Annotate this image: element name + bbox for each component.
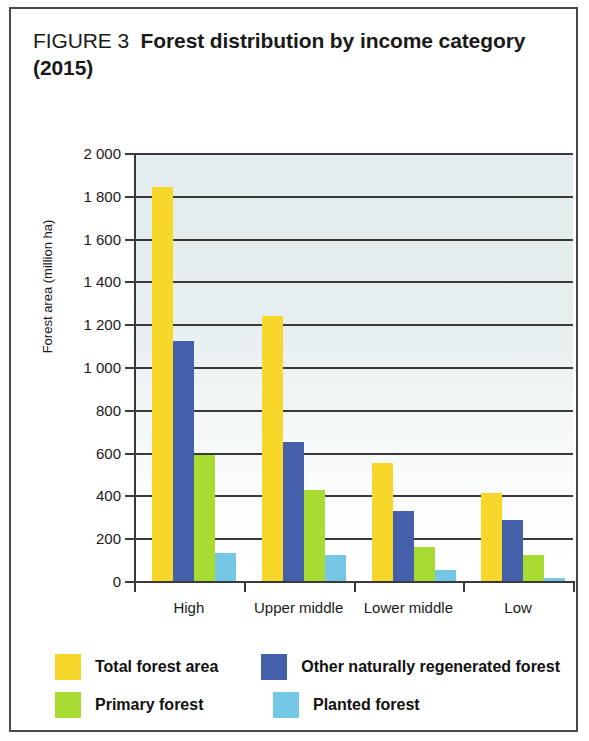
y-tick-mark: [125, 453, 134, 455]
x-category-label: Low: [504, 599, 532, 616]
y-tick-label: 2 000: [83, 145, 121, 162]
y-axis-line: [134, 153, 136, 583]
bar: [173, 341, 194, 581]
gridline: [134, 324, 573, 326]
y-axis-title: Forest area (million ha): [40, 187, 55, 387]
legend-label: Other naturally regenerated forest: [301, 658, 560, 676]
gridline: [134, 153, 573, 155]
y-tick-label: 1 600: [83, 230, 121, 247]
bar: [215, 553, 236, 581]
bar: [152, 187, 173, 581]
bar: [414, 547, 435, 581]
legend-label: Planted forest: [313, 696, 420, 714]
bar: [283, 442, 304, 581]
bar: [435, 570, 456, 581]
chart-legend: Total forest area Other naturally regene…: [55, 648, 560, 724]
gridline: [134, 239, 573, 241]
y-tick-label: 400: [96, 487, 121, 504]
bar: [262, 316, 283, 581]
y-tick-label: 200: [96, 530, 121, 547]
legend-row: Primary forest Planted forest: [55, 686, 560, 724]
bar: [393, 511, 414, 581]
x-axis-line: [134, 581, 575, 583]
y-tick-mark: [125, 538, 134, 540]
y-tick-mark: [125, 367, 134, 369]
y-tick-mark: [125, 153, 134, 155]
legend-item-other-naturally-regenerated-forest: Other naturally regenerated forest: [261, 654, 560, 680]
y-tick-mark: [125, 410, 134, 412]
bar: [481, 493, 502, 581]
y-tick-mark: [125, 281, 134, 283]
legend-swatch-icon: [261, 654, 287, 680]
bar: [372, 463, 393, 581]
legend-item-primary-forest: Primary forest: [55, 692, 273, 718]
legend-label: Total forest area: [95, 658, 218, 676]
y-tick-mark: [125, 581, 134, 583]
bar: [502, 520, 523, 581]
y-tick-label: 1 000: [83, 359, 121, 376]
gridline: [134, 196, 573, 198]
y-tick-label: 1 200: [83, 316, 121, 333]
x-category-label: High: [173, 599, 204, 616]
y-tick-label: 0: [113, 573, 121, 590]
legend-item-total-forest-area: Total forest area: [55, 654, 261, 680]
y-tick-mark: [125, 239, 134, 241]
legend-label: Primary forest: [95, 696, 204, 714]
y-tick-mark: [125, 495, 134, 497]
y-tick-mark: [125, 196, 134, 198]
gridline: [134, 410, 573, 412]
y-tick-mark: [125, 324, 134, 326]
gridline: [134, 367, 573, 369]
legend-row: Total forest area Other naturally regene…: [55, 648, 560, 686]
plot-area: 02004006008001 0001 2001 4001 6001 8002 …: [134, 153, 573, 581]
gridline: [134, 281, 573, 283]
bar: [194, 455, 215, 581]
y-tick-label: 800: [96, 401, 121, 418]
y-tick-label: 600: [96, 444, 121, 461]
bar-chart: Forest area (million ha) 02004006008001 …: [11, 9, 576, 730]
legend-swatch-icon: [55, 692, 81, 718]
bar: [325, 555, 346, 581]
figure-container: FIGURE 3 Forest distribution by income c…: [9, 7, 578, 732]
y-tick-label: 1 400: [83, 273, 121, 290]
x-category-label: Upper middle: [254, 599, 343, 616]
bar: [523, 555, 544, 581]
y-tick-label: 1 800: [83, 187, 121, 204]
legend-item-planted-forest: Planted forest: [273, 692, 420, 718]
bar: [304, 490, 325, 581]
x-category-label: Lower middle: [364, 599, 453, 616]
legend-swatch-icon: [273, 692, 299, 718]
legend-swatch-icon: [55, 654, 81, 680]
